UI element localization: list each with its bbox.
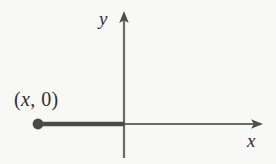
point-coordinate-label: (x, 0) xyxy=(14,89,59,109)
point-label-close-paren: ) xyxy=(52,88,59,110)
coordinate-plane-figure: y x (x, 0) xyxy=(0,0,276,164)
point-label-open-paren: ( xyxy=(14,88,21,110)
point-label-value: 0 xyxy=(41,88,51,110)
marked-point-dot xyxy=(33,119,44,130)
axes-diagram xyxy=(0,0,276,164)
point-label-variable: x xyxy=(21,88,30,110)
point-label-separator: , xyxy=(30,88,41,110)
y-axis-label: y xyxy=(99,9,107,28)
x-axis-label: x xyxy=(247,131,255,150)
